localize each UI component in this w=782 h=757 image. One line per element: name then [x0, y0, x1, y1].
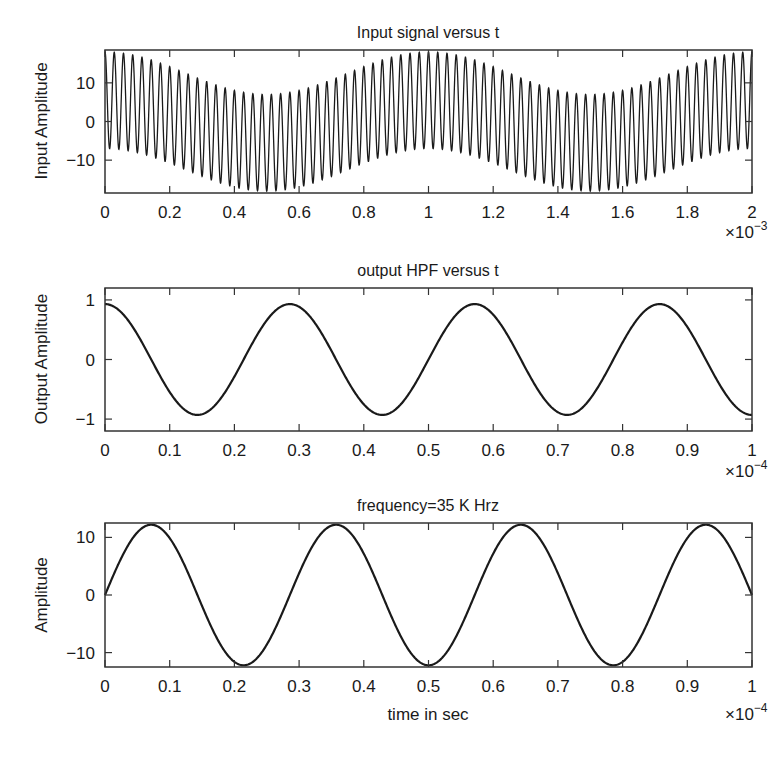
axes-frame [105, 523, 752, 667]
svg-text:×10−3: ×10−3 [725, 219, 768, 242]
y-axis-label: Output Amplitude [32, 294, 51, 424]
plot-output-hpf: output HPF versus t Output Amplitude ×10… [32, 262, 768, 481]
y-tick-label: 10 [76, 528, 95, 547]
x-tick-label: 0.8 [352, 203, 376, 222]
x-tick-label: 0.3 [287, 677, 311, 696]
data-line [105, 304, 752, 415]
y-axis-label: Amplitude [32, 557, 51, 633]
x-tick-label: 2 [747, 203, 756, 222]
plot-area: 00.20.40.60.811.21.41.61.82100−10 [66, 50, 757, 222]
x-tick-label: 0.4 [352, 441, 376, 460]
x-multiplier: ×10−4 [725, 458, 768, 481]
y-axis-label: Input Amplitude [32, 62, 51, 179]
x-axis-label: time in sec [387, 705, 469, 724]
plot-title: output HPF versus t [357, 262, 499, 279]
y-tick-label: 0 [86, 586, 95, 605]
x-tick-label: 0.9 [675, 677, 699, 696]
plot-title: Input signal versus t [357, 24, 500, 41]
x-tick-label: 1 [424, 203, 433, 222]
x-tick-label: 0.6 [287, 203, 311, 222]
x-multiplier: ×10−4 [725, 701, 768, 724]
y-tick-label: −10 [66, 151, 95, 170]
y-tick-label: 1 [86, 291, 95, 310]
x-tick-label: 0.2 [158, 203, 182, 222]
x-tick-label: 0.5 [417, 441, 441, 460]
plot-area: 00.10.20.30.40.50.60.70.80.91100−10 [66, 523, 757, 696]
x-tick-label: 0.5 [417, 677, 441, 696]
x-tick-label: 0 [100, 441, 109, 460]
x-tick-label: 0.6 [481, 677, 505, 696]
plot-area: 00.10.20.30.40.50.60.70.80.9110−1 [76, 288, 757, 460]
data-line [105, 525, 752, 666]
plot-title: frequency=35 K Hrz [357, 497, 499, 514]
x-tick-label: 1.8 [675, 203, 699, 222]
plot-input-signal: Input signal versus t Input Amplitude ×1… [32, 24, 768, 242]
y-tick-label: −10 [66, 644, 95, 663]
x-tick-label: 1 [747, 441, 756, 460]
x-tick-label: 0.4 [352, 677, 376, 696]
y-tick-label: −1 [76, 410, 95, 429]
x-tick-label: 1.2 [481, 203, 505, 222]
plot-frequency-35k: frequency=35 K Hrz Amplitude time in sec… [32, 497, 768, 724]
x-tick-label: 0.4 [223, 203, 247, 222]
y-tick-label: 0 [86, 351, 95, 370]
y-tick-label: 0 [86, 113, 95, 132]
data-line [105, 52, 752, 191]
x-tick-label: 0.7 [546, 677, 570, 696]
x-multiplier: ×10−3 [725, 219, 768, 242]
x-tick-label: 0.1 [158, 441, 182, 460]
x-tick-label: 1.4 [546, 203, 570, 222]
x-tick-label: 0.1 [158, 677, 182, 696]
x-tick-label: 0 [100, 203, 109, 222]
figure: Input signal versus t Input Amplitude ×1… [0, 0, 782, 757]
svg-text:×10−4: ×10−4 [725, 701, 768, 724]
x-tick-label: 0.9 [675, 441, 699, 460]
x-tick-label: 0.3 [287, 441, 311, 460]
x-tick-label: 0.2 [223, 677, 247, 696]
x-tick-label: 1.6 [611, 203, 635, 222]
y-tick-label: 10 [76, 74, 95, 93]
x-tick-label: 1 [747, 677, 756, 696]
x-tick-label: 0.2 [223, 441, 247, 460]
x-tick-label: 0.7 [546, 441, 570, 460]
svg-text:×10−4: ×10−4 [725, 458, 768, 481]
x-tick-label: 0 [100, 677, 109, 696]
x-tick-label: 0.6 [481, 441, 505, 460]
x-tick-label: 0.8 [611, 677, 635, 696]
x-tick-label: 0.8 [611, 441, 635, 460]
